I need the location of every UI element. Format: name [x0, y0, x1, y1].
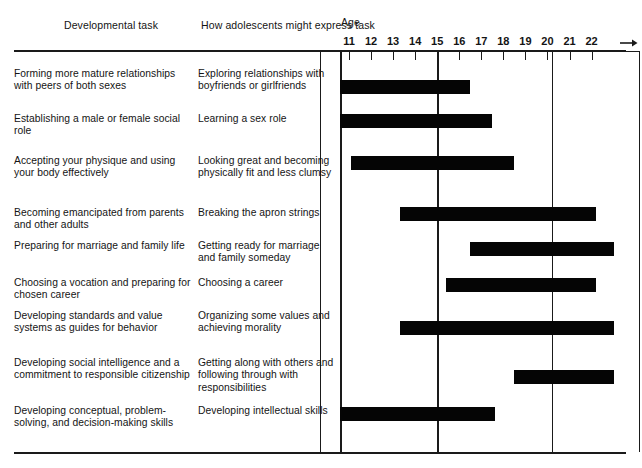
row-task-label: Developing standards and value systems a… — [14, 310, 194, 335]
row-task-label: Becoming emancipated from parents and ot… — [14, 207, 194, 232]
plot-frame-right — [639, 52, 640, 452]
axis-tick-label-12: 12 — [362, 36, 380, 47]
timeline-bar — [340, 114, 492, 128]
timeline-plot-area — [320, 52, 640, 452]
row-task-label: Forming more mature relationships with p… — [14, 68, 194, 93]
row-expression-label: Breaking the apron strings — [198, 207, 338, 219]
column-header-developmental-task: Developmental task — [18, 19, 204, 32]
row-expression-label: Developing intellectual skills — [198, 405, 338, 417]
timeline-bar — [351, 156, 514, 170]
axis-tick-label-21: 21 — [561, 36, 579, 47]
row-expression-label: Getting along with others and following … — [198, 357, 338, 394]
timeline-bar — [446, 278, 596, 292]
axis-tick-label-19: 19 — [516, 36, 534, 47]
row-task-label: Preparing for marriage and family life — [14, 240, 194, 252]
axis-title-age: Age — [341, 16, 401, 29]
timeline-bar — [340, 407, 494, 421]
developmental-tasks-chart: Developmental task How adolescents might… — [0, 0, 642, 468]
axis-tick-label-20: 20 — [538, 36, 556, 47]
axis-tick-label-17: 17 — [472, 36, 490, 47]
axis-tick-label-16: 16 — [450, 36, 468, 47]
axis-arrow-icon — [620, 39, 638, 47]
row-task-label: Choosing a vocation and preparing for ch… — [14, 277, 194, 302]
axis-tick-label-11: 11 — [340, 36, 358, 47]
axis-tick-label-15: 15 — [428, 36, 446, 47]
axis-tick-label-18: 18 — [494, 36, 512, 47]
timeline-bar — [340, 80, 470, 94]
timeline-bar — [514, 370, 613, 384]
axis-tick-label-13: 13 — [384, 36, 402, 47]
row-expression-label: Organizing some values and achieving mor… — [198, 310, 338, 335]
axis-tick-label-22: 22 — [583, 36, 601, 47]
axis-tick-label-14: 14 — [406, 36, 424, 47]
row-expression-label: Choosing a career — [198, 277, 338, 289]
row-expression-label: Getting ready for marriage and family so… — [198, 240, 338, 265]
row-expression-label: Exploring relationships with boyfriends … — [198, 68, 338, 93]
row-task-label: Developing social intelligence and a com… — [14, 357, 194, 382]
row-task-label: Establishing a male or female social rol… — [14, 113, 194, 138]
row-task-label: Accepting your physique and using your b… — [14, 155, 194, 180]
gridline-1 — [340, 52, 341, 452]
row-expression-label: Learning a sex role — [198, 113, 338, 125]
timeline-bar — [470, 242, 613, 256]
timeline-bar — [400, 207, 596, 221]
footer-rule — [14, 452, 626, 454]
row-expression-label: Looking great and becoming physically fi… — [198, 155, 338, 180]
timeline-bar — [400, 321, 614, 335]
row-task-label: Developing conceptual, problem-solving, … — [14, 405, 194, 430]
gridline-2 — [437, 52, 438, 452]
